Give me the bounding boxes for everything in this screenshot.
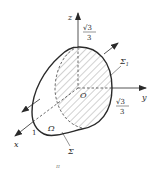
z-axis-label: z — [67, 13, 73, 22]
normal-arrow-sigma — [22, 99, 40, 112]
caption-fragment: π — [55, 162, 61, 169]
sigma1-subscript: 1 — [126, 61, 129, 67]
z-intercept-denominator: 3 — [87, 34, 91, 42]
surface-integral-diagram: z y x O √3 3 √3 3 1 Σ1 Ω Σ π — [0, 0, 158, 173]
sigma-leader-line — [62, 132, 70, 146]
y-axis-label: y — [141, 93, 147, 102]
x-axis-label: x — [14, 140, 19, 149]
y-intercept-denominator: 3 — [120, 108, 124, 116]
normal-arrow-sigma1 — [104, 43, 118, 54]
sigma1-label: Σ1 — [119, 57, 129, 67]
sigma-label: Σ — [67, 147, 74, 156]
sigma1-leader-line — [110, 66, 121, 76]
omega-label: Ω — [47, 124, 55, 133]
z-intercept-numerator: √3 — [83, 24, 92, 32]
origin-label: O — [80, 91, 87, 100]
x-intercept-label: 1 — [32, 129, 36, 137]
y-intercept-numerator: √3 — [116, 98, 125, 106]
